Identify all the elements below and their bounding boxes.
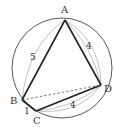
length-BC: 1	[24, 106, 30, 116]
length-AB: 5	[30, 52, 36, 62]
side-AD	[65, 20, 101, 85]
diagram-canvas: A B C D 5 4 4 1	[0, 0, 115, 127]
label-D: D	[104, 83, 112, 94]
side-DC	[36, 85, 101, 111]
label-A: A	[60, 4, 69, 15]
label-B: B	[10, 95, 17, 106]
length-AD: 4	[86, 41, 92, 51]
length-DC: 4	[70, 100, 76, 110]
geometry-figure: A B C D 5 4 4 1	[0, 0, 115, 127]
side-AB	[22, 20, 65, 100]
label-C: C	[33, 115, 41, 126]
